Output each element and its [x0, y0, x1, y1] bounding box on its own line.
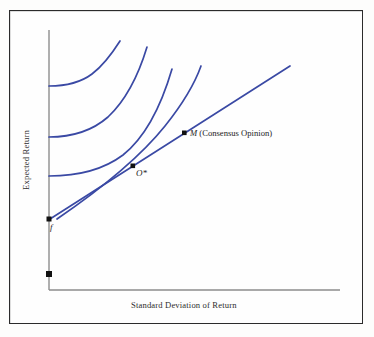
x-axis-title: Standard Deviation of Return	[131, 300, 237, 310]
chart-canvas	[0, 0, 374, 337]
y-axis-title: Expected Return	[21, 112, 31, 208]
indifference-curve-3	[49, 41, 120, 86]
indifference-curve-2	[49, 47, 147, 137]
capital-market-line	[50, 66, 290, 219]
plot-area: Standard Deviation of Return Expected Re…	[0, 0, 374, 337]
market-portfolio-marker	[182, 131, 187, 136]
optimal-portfolio-marker	[131, 164, 136, 169]
market-portfolio-parenthetical: (Consensus Opinion)	[199, 128, 272, 138]
optimal-portfolio-label: O*	[136, 168, 147, 178]
market-portfolio-symbol: M	[190, 128, 197, 138]
indifference-curves-group	[49, 41, 172, 176]
market-portfolio-label: M (Consensus Opinion)	[190, 128, 272, 138]
figure-root: Standard Deviation of Return Expected Re…	[0, 0, 374, 337]
axis-group	[49, 30, 340, 290]
risk-free-rate-label: f	[50, 222, 53, 232]
origin-axis-marker	[46, 271, 52, 277]
risk-free-point-marker	[47, 217, 52, 222]
point-markers-group	[46, 131, 187, 278]
